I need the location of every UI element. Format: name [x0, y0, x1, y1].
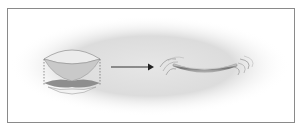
diagram-canvas [8, 9, 295, 123]
diagram-frame [7, 8, 295, 123]
